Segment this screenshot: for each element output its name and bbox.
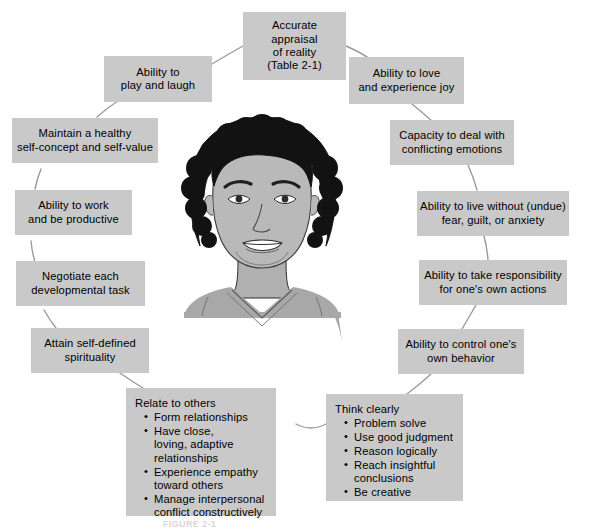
node-bullet-list: Form relationships Have close, loving, a… — [135, 410, 264, 519]
node-attain-spirituality[interactable]: Attain self-defined spirituality — [31, 328, 149, 373]
connector-love-to-capacity — [412, 104, 432, 121]
node-title: Ability to control one's own behavior — [405, 338, 516, 365]
list-item: Be creative — [344, 486, 453, 499]
list-item: Problem solve — [344, 417, 453, 430]
connector-spirituality-to-negotiate — [44, 310, 56, 328]
node-think-clearly[interactable]: Think clearly Problem solve Use good jud… — [326, 394, 463, 501]
node-capacity-conflicting-emotions[interactable]: Capacity to deal with conflicting emotio… — [390, 120, 514, 165]
connector-selfconcept-to-play — [97, 101, 118, 117]
node-title: Negotiate each developmental task — [31, 270, 129, 297]
node-title: Attain self-defined spirituality — [44, 337, 136, 364]
connector-play-to-appraisal — [212, 46, 243, 64]
list-item: Have close, loving, adaptive relationshi… — [144, 425, 264, 465]
node-play-and-laugh[interactable]: Ability to play and laugh — [104, 56, 212, 102]
node-accurate-appraisal[interactable]: Accurate appraisal of reality (Table 2-1… — [243, 12, 346, 80]
connector-work-to-selfconcept — [35, 169, 41, 189]
node-healthy-self-concept[interactable]: Maintain a healthy self-concept and self… — [12, 118, 158, 163]
list-item: Experience empathy toward others — [144, 466, 264, 493]
node-work-productive[interactable]: Ability to work and be productive — [15, 190, 132, 235]
node-control-own-behavior[interactable]: Ability to control one's own behavior — [398, 329, 524, 374]
figure-caption: FIGURE 2-1 — [163, 519, 433, 529]
node-relate-to-others[interactable]: Relate to others Form relationships Have… — [126, 388, 276, 516]
node-title: Capacity to deal with conflicting emotio… — [399, 129, 505, 156]
list-item: Reach insightful conclusions — [344, 459, 453, 486]
node-title: Ability to work and be productive — [28, 199, 119, 226]
connector-capacity-to-fear — [468, 165, 477, 190]
list-item: Use good judgment — [344, 431, 453, 444]
list-item: Manage interpersonal conflict constructi… — [144, 493, 264, 520]
node-title: Ability to take responsibility for one's… — [424, 269, 562, 296]
node-title: Ability to love and experience joy — [359, 67, 455, 94]
node-live-without-fear[interactable]: Ability to live without (undue) fear, gu… — [417, 191, 569, 236]
node-title: Relate to others — [135, 397, 216, 410]
connector-control-to-think — [407, 374, 431, 394]
node-ability-to-love[interactable]: Ability to love and experience joy — [349, 57, 464, 104]
connector-responsibility-to-control — [462, 305, 476, 329]
connector-negotiate-to-work — [31, 241, 35, 262]
node-title: Ability to live without (undue) fear, gu… — [420, 200, 566, 227]
node-negotiate-developmental-task[interactable]: Negotiate each developmental task — [16, 261, 145, 306]
list-item: Reason logically — [344, 445, 453, 458]
connector-fear-to-responsibility — [484, 236, 488, 260]
node-bullet-list: Problem solve Use good judgment Reason l… — [335, 416, 453, 499]
node-title: Think clearly — [335, 403, 399, 416]
node-take-responsibility[interactable]: Ability to take responsibility for one's… — [419, 260, 567, 305]
list-item: Form relationships — [144, 411, 264, 424]
node-title: Accurate appraisal of reality (Table 2-1… — [267, 19, 322, 73]
figure-container: Accurate appraisal of reality (Table 2-1… — [0, 0, 589, 529]
connector-think-to-relate — [296, 424, 326, 428]
node-title: Maintain a healthy self-concept and self… — [17, 127, 153, 154]
node-title: Ability to play and laugh — [121, 66, 195, 93]
